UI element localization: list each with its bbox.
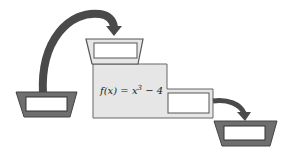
output-arrow	[213, 101, 251, 121]
input-tray	[16, 92, 77, 117]
function-lhs: f(x) = x	[100, 85, 138, 96]
diagram-graphics	[0, 0, 289, 157]
function-rhs: − 4	[142, 85, 163, 96]
output-slot	[168, 93, 209, 113]
output-tray	[214, 121, 277, 146]
machine-hopper	[86, 39, 143, 64]
function-machine-diagram: f(x) = x3 − 4	[0, 0, 289, 157]
function-rule-label: f(x) = x3 − 4	[100, 84, 170, 96]
